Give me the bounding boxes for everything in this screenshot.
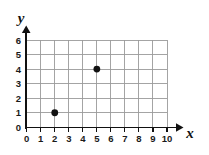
coordinate-plane-figure: 012345678910 0123456 x y <box>0 0 209 155</box>
x-axis-title: x <box>185 125 194 141</box>
x-tick-label: 8 <box>136 133 141 144</box>
y-tick-label: 3 <box>16 78 21 89</box>
data-point-2-1 <box>51 109 58 116</box>
y-axis-tick-labels: 0123456 <box>16 35 22 133</box>
data-point-5-4 <box>93 66 100 73</box>
x-tick-label: 10 <box>162 133 173 144</box>
x-tick-label: 7 <box>122 133 127 144</box>
figure-background <box>0 0 209 155</box>
x-tick-label: 9 <box>150 133 155 144</box>
x-tick-label: 3 <box>66 133 71 144</box>
y-tick-label: 0 <box>16 122 21 133</box>
x-tick-label: 4 <box>80 133 86 144</box>
coordinate-plane-svg: 012345678910 0123456 x y <box>0 0 209 155</box>
y-axis-title: y <box>16 10 25 26</box>
x-tick-label: 2 <box>52 133 57 144</box>
x-tick-label: 6 <box>108 133 113 144</box>
y-tick-label: 5 <box>16 49 22 60</box>
y-tick-label: 6 <box>16 35 21 46</box>
y-tick-label: 1 <box>16 107 22 118</box>
y-tick-label: 4 <box>16 64 22 75</box>
y-tick-label: 2 <box>16 93 21 104</box>
x-tick-label: 1 <box>38 133 44 144</box>
x-tick-label: 0 <box>24 133 29 144</box>
x-tick-label: 5 <box>94 133 100 144</box>
